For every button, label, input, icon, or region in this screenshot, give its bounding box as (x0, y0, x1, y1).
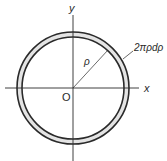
x-axis-label: x (143, 82, 150, 94)
ring-label-leader (123, 51, 133, 59)
annulus-diagram: y x O ρ 2πρdρ (0, 0, 167, 161)
y-axis-label: y (68, 2, 76, 14)
origin-label: O (62, 91, 71, 103)
ring-area-label: 2πρdρ (133, 42, 164, 53)
radius-label: ρ (83, 56, 90, 67)
radius-line (73, 50, 108, 88)
diagram-svg: y x O ρ 2πρdρ (0, 0, 167, 161)
